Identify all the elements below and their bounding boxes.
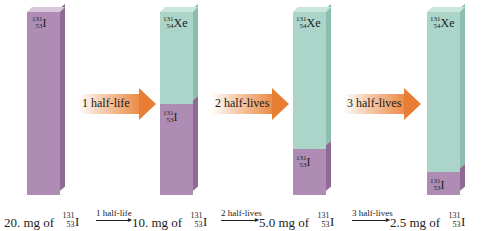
atomic-number: 54 bbox=[163, 23, 174, 30]
iodine-131-label: 13153I bbox=[163, 110, 178, 124]
element-symbol: I bbox=[441, 178, 445, 192]
amount-text: 2.5 mg of bbox=[390, 215, 443, 230]
bar-top-face bbox=[160, 7, 198, 12]
arrow-line bbox=[221, 220, 257, 221]
amount-2: 10. mg of 13153I bbox=[132, 214, 207, 231]
reaction-arrow-label: 1 half-life bbox=[96, 208, 130, 218]
xenon-131-label: 13154Xe bbox=[296, 16, 321, 30]
amount-1: 20. mg of 13153I bbox=[4, 214, 79, 231]
atomic-number: 53 bbox=[32, 23, 43, 30]
sample-bar-3: 13154Xe13153I bbox=[293, 12, 326, 195]
xenon-131-label: 13154Xe bbox=[163, 16, 188, 30]
element-symbol: I bbox=[461, 214, 465, 230]
element-symbol: Xe bbox=[174, 16, 188, 30]
iodine-segment bbox=[460, 164, 465, 191]
amount-text: 5.0 mg of bbox=[259, 215, 312, 230]
amount-4: 2.5 mg of 13153I bbox=[390, 214, 465, 231]
atomic-number: 53 bbox=[452, 220, 460, 229]
xenon-131-label-numbers: 13154 bbox=[296, 16, 307, 30]
amount-text: 20. mg of bbox=[4, 215, 57, 230]
arrow-line bbox=[96, 220, 130, 221]
iodine-segment bbox=[193, 95, 198, 191]
mass-number: 131 bbox=[317, 211, 329, 220]
bar-front-face: 13154Xe13153I bbox=[427, 12, 460, 195]
arrow-head-icon: ▸ bbox=[128, 216, 132, 224]
xenon-segment bbox=[293, 12, 326, 149]
atomic-number: 53 bbox=[194, 220, 202, 229]
bar-front-face: 13153I bbox=[27, 12, 60, 195]
bar-top-face bbox=[293, 7, 331, 12]
element-symbol: Xe bbox=[441, 16, 455, 30]
xenon-segment bbox=[427, 12, 460, 172]
atomic-number: 53 bbox=[430, 185, 441, 192]
arrow-head-icon bbox=[272, 88, 289, 120]
mass-number: 131 bbox=[62, 211, 74, 220]
atomic-number: 53 bbox=[296, 162, 307, 169]
bar-front-face: 13154Xe13153I bbox=[293, 12, 326, 195]
bar-side-face bbox=[460, 4, 465, 191]
iodine-segment bbox=[326, 141, 331, 191]
atomic-number: 53 bbox=[163, 117, 174, 124]
xenon-131-label: 13154Xe bbox=[430, 16, 455, 30]
half-life-arrow-1: 1 half-life bbox=[78, 88, 156, 120]
bar-side-face bbox=[326, 4, 331, 191]
xenon-segment bbox=[326, 4, 331, 145]
iodine-131-label: 13153I bbox=[296, 155, 311, 169]
iodine-131-symbol: 13153I bbox=[57, 214, 79, 230]
amount-text: 10. mg of bbox=[132, 215, 185, 230]
arrow-label: 3 half-lives bbox=[347, 96, 401, 111]
iodine-131-label-numbers: 13153 bbox=[296, 155, 307, 169]
arrow-head-icon bbox=[139, 88, 156, 120]
amount-3: 5.0 mg of 13153I bbox=[259, 214, 334, 231]
iodine-131-label: 13153I bbox=[32, 16, 47, 30]
iodine-131-symbol: 13153I bbox=[312, 214, 334, 230]
sample-bar-4: 13154Xe13153I bbox=[427, 12, 460, 195]
sample-bar-2: 13154Xe13153I bbox=[160, 12, 193, 195]
bar-top-face bbox=[427, 7, 465, 12]
element-symbol: I bbox=[330, 214, 334, 230]
reaction-arrow-label: 2 half-lives bbox=[221, 208, 257, 218]
arrow-head-icon: ▸ bbox=[255, 216, 259, 224]
iodine-131-label-numbers: 13153 bbox=[430, 178, 441, 192]
arrow-head-icon: ▸ bbox=[386, 216, 390, 224]
xenon-131-label-numbers: 13154 bbox=[163, 16, 174, 30]
reaction-arrow-label: 3 half-lives bbox=[352, 208, 388, 218]
half-life-arrow-2: 2 half-lives bbox=[211, 88, 289, 120]
half-life-arrow-3: 3 half-lives bbox=[343, 88, 421, 120]
element-symbol: I bbox=[203, 214, 207, 230]
atomic-number: 54 bbox=[430, 23, 441, 30]
iodine-131-label-numbers: 13153 bbox=[32, 16, 43, 30]
arrow-label: 2 half-lives bbox=[215, 96, 269, 111]
bar-side-face bbox=[193, 4, 198, 191]
iodine-segment bbox=[27, 12, 60, 195]
atomic-number: 54 bbox=[296, 23, 307, 30]
element-symbol: I bbox=[75, 214, 79, 230]
element-symbol: I bbox=[174, 110, 178, 124]
element-symbol: I bbox=[307, 155, 311, 169]
bar-front-face: 13154Xe13153I bbox=[160, 12, 193, 195]
iodine-segment bbox=[60, 4, 65, 191]
sample-bar-1: 13153I bbox=[27, 12, 60, 195]
xenon-131-label-numbers: 13154 bbox=[430, 16, 441, 30]
element-symbol: I bbox=[43, 16, 47, 30]
xenon-segment bbox=[460, 4, 465, 168]
atomic-number: 53 bbox=[321, 220, 329, 229]
iodine-131-label: 13153I bbox=[430, 178, 445, 192]
iodine-131-label-numbers: 13153 bbox=[163, 110, 174, 124]
arrow-head-icon bbox=[404, 88, 421, 120]
element-symbol: Xe bbox=[307, 16, 321, 30]
iodine-131-symbol: 13153I bbox=[185, 214, 207, 230]
decay-equation: 20. mg of 13153I10. mg of 13153I5.0 mg o… bbox=[0, 208, 486, 231]
bar-side-face bbox=[60, 4, 65, 191]
iodine-131-symbol: 13153I bbox=[443, 214, 465, 230]
xenon-segment bbox=[193, 4, 198, 100]
bar-top-face bbox=[27, 7, 65, 12]
atomic-number: 53 bbox=[66, 220, 74, 229]
arrow-line bbox=[352, 220, 388, 221]
mass-number: 131 bbox=[190, 211, 202, 220]
arrow-label: 1 half-life bbox=[82, 96, 130, 111]
mass-number: 131 bbox=[448, 211, 460, 220]
